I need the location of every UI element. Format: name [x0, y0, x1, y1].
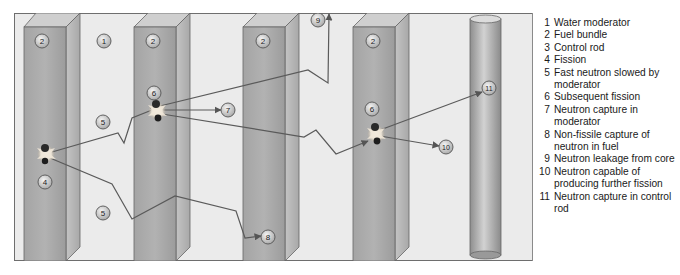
legend-text: Neutron leakage from core — [554, 153, 676, 165]
legend-text: Fission — [554, 54, 676, 66]
marker-6: 6 — [365, 102, 379, 116]
legend-number: 8 — [539, 129, 550, 154]
legend-item: 4Fission — [539, 54, 676, 66]
marker-2: 2 — [35, 34, 49, 48]
legend-number: 6 — [539, 91, 550, 103]
marker-label: 10 — [442, 144, 450, 151]
legend-text: Neutron capable of producing further fis… — [554, 166, 676, 191]
legend-number: 4 — [539, 54, 550, 66]
legend-item: 9Neutron leakage from core — [539, 153, 676, 165]
marker-label: 2 — [371, 37, 376, 46]
legend-text: Non-fissile capture of neutron in fuel — [554, 129, 676, 154]
legend-item: 1Water moderator — [539, 17, 676, 29]
marker-4: 4 — [38, 175, 52, 189]
marker-5: 5 — [96, 115, 110, 129]
legend-text: Water moderator — [554, 17, 676, 29]
legend-text: Fuel bundle — [554, 29, 676, 41]
marker-label: 6 — [152, 89, 157, 98]
legend-number: 10 — [539, 166, 550, 191]
legend-item: 5Fast neutron slowed by moderator — [539, 67, 676, 92]
marker-label: 11 — [485, 85, 492, 92]
marker-label: 5 — [101, 118, 106, 127]
legend-item: 2Fuel bundle — [539, 29, 676, 41]
marker-label: 2 — [151, 37, 156, 46]
marker-label: 1 — [102, 37, 107, 46]
marker-label: 2 — [261, 37, 266, 46]
legend-item: 6Subsequent fission — [539, 91, 676, 103]
fuel-bundle-2 — [134, 13, 190, 261]
reactor-diagram: 21222967610115458 — [14, 13, 532, 261]
marker-label: 7 — [226, 106, 231, 115]
marker-8: 8 — [261, 230, 275, 244]
legend-text: Neutron capture in moderator — [554, 104, 676, 129]
fuel-bundle-3 — [243, 13, 299, 261]
marker-11: 11 — [482, 81, 496, 95]
legend-item: 3Control rod — [539, 42, 676, 54]
marker-label: 4 — [43, 178, 48, 187]
marker-label: 6 — [370, 105, 375, 114]
legend-text: Fast neutron slowed by moderator — [554, 67, 676, 92]
fuel-bundle-1 — [24, 13, 80, 261]
marker-label: 5 — [101, 209, 106, 218]
marker-10: 10 — [439, 140, 453, 154]
marker-label: 8 — [266, 233, 271, 242]
control-rod — [470, 15, 501, 259]
marker-9: 9 — [311, 13, 325, 27]
marker-1: 1 — [97, 34, 111, 48]
marker-2: 2 — [366, 34, 380, 48]
legend-text: Control rod — [554, 42, 676, 54]
legend-text: Subsequent fission — [554, 91, 676, 103]
legend-number: 5 — [539, 67, 550, 92]
legend-number: 9 — [539, 153, 550, 165]
legend-panel: 1Water moderator2Fuel bundle3Control rod… — [532, 13, 676, 261]
marker-2: 2 — [146, 34, 160, 48]
legend-item: 8Non-fissile capture of neutron in fuel — [539, 129, 676, 154]
marker-label: 2 — [40, 37, 45, 46]
legend-item: 11Neutron capture in control rod — [539, 191, 676, 216]
marker-label: 9 — [316, 16, 321, 25]
legend-number: 11 — [539, 191, 550, 216]
marker-6: 6 — [147, 86, 161, 100]
legend-item: 7Neutron capture in moderator — [539, 104, 676, 129]
legend-number: 2 — [539, 29, 550, 41]
legend-number: 7 — [539, 104, 550, 129]
marker-7: 7 — [221, 103, 235, 117]
legend-number: 3 — [539, 42, 550, 54]
legend-text: Neutron capture in control rod — [554, 191, 676, 216]
legend-number: 1 — [539, 17, 550, 29]
marker-5: 5 — [96, 206, 110, 220]
legend-item: 10Neutron capable of producing further f… — [539, 166, 676, 191]
marker-2: 2 — [256, 34, 270, 48]
